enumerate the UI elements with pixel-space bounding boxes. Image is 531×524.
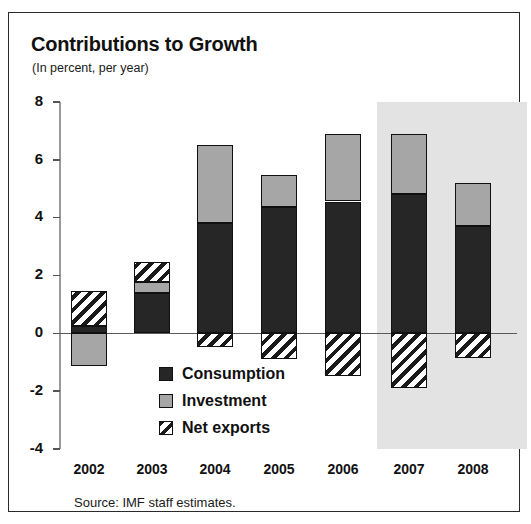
x-tick-label-2008: 2008 — [443, 461, 503, 477]
y-tick-label: 4 — [13, 207, 43, 224]
legend-swatch-investment-icon — [159, 394, 173, 408]
bar-segment-investment — [197, 145, 233, 223]
y-tick-label: 0 — [13, 323, 43, 340]
y-tick-label: 6 — [13, 150, 43, 167]
bar-segment-net-exports — [197, 333, 233, 347]
bar-segment-investment — [455, 183, 491, 226]
bar-segment-consumption — [325, 202, 361, 333]
bar-segment-consumption — [455, 226, 491, 333]
bar-segment-net-exports — [391, 333, 427, 388]
legend-label-net-exports: Net exports — [182, 419, 270, 437]
legend-label-investment: Investment — [182, 392, 266, 410]
bar-segment-consumption — [197, 223, 233, 333]
plot-area: 86420-2-42002200320042005200620072008 — [9, 13, 531, 524]
y-tick-label: -4 — [13, 439, 43, 456]
bar-segment-investment — [71, 333, 107, 366]
bar-segment-investment — [134, 282, 170, 292]
bar-segment-consumption — [391, 194, 427, 333]
y-tick-mark — [53, 217, 60, 219]
bar-segment-net-exports — [455, 333, 491, 358]
y-tick-mark — [53, 275, 60, 277]
y-tick-label: -2 — [13, 381, 43, 398]
bar-segment-net-exports — [71, 291, 107, 326]
x-tick-label-2007: 2007 — [379, 461, 439, 477]
bar-segment-consumption — [261, 207, 297, 333]
bar-segment-investment — [391, 134, 427, 195]
x-tick-label-2006: 2006 — [313, 461, 373, 477]
legend-item-net-exports: Net exports — [159, 419, 285, 437]
legend-label-consumption: Consumption — [182, 365, 285, 383]
x-tick-label-2004: 2004 — [185, 461, 245, 477]
legend-item-investment: Investment — [159, 392, 285, 410]
y-tick-mark — [53, 101, 60, 103]
bar-segment-consumption — [71, 326, 107, 333]
legend-swatch-net-exports-icon — [159, 421, 173, 435]
y-tick-label: 2 — [13, 265, 43, 282]
y-tick-label: 8 — [13, 92, 43, 109]
bar-segment-investment — [261, 175, 297, 207]
x-tick-label-2003: 2003 — [122, 461, 182, 477]
source-note: Source: IMF staff estimates. — [74, 495, 236, 510]
chart-frame: Contributions to Growth (In percent, per… — [8, 12, 520, 512]
legend-swatch-consumption-icon — [159, 367, 173, 381]
chart-legend: Consumption Investment Net exports — [159, 365, 285, 446]
y-tick-mark — [53, 159, 60, 161]
y-tick-mark — [53, 448, 60, 450]
bar-segment-investment — [325, 134, 361, 202]
bar-segment-net-exports — [134, 262, 170, 282]
bar-segment-net-exports — [325, 333, 361, 376]
legend-item-consumption: Consumption — [159, 365, 285, 383]
x-tick-label-2002: 2002 — [59, 461, 119, 477]
y-tick-mark — [53, 390, 60, 392]
x-tick-label-2005: 2005 — [249, 461, 309, 477]
bar-segment-consumption — [134, 293, 170, 333]
bar-segment-net-exports — [261, 333, 297, 359]
